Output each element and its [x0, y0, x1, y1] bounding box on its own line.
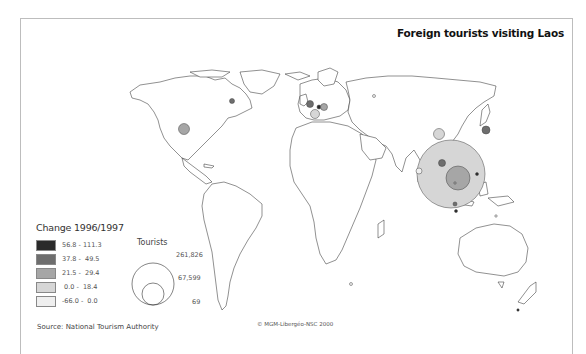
- legend-swatch-5: [36, 296, 56, 307]
- north-america: [130, 76, 252, 160]
- symbol-south-africa: [350, 283, 353, 286]
- legend-class-4: 0.0 - 18.4: [36, 281, 97, 293]
- legend-swatch-1: [36, 240, 56, 251]
- symbol-vietnam: [446, 166, 470, 190]
- symbol-russia: [373, 95, 376, 98]
- legend-label-4: 0.0 - 18.4: [62, 283, 97, 291]
- copyright-note: © MGM-Libergéo-NSC 2000: [257, 321, 333, 327]
- symbol-malaysia: [453, 202, 457, 206]
- size-legend-circle-medium: [142, 283, 164, 305]
- symbol-france: [311, 110, 320, 119]
- size-legend-value-2: 67,599: [178, 274, 201, 282]
- south-america: [202, 182, 262, 310]
- size-legend-circle-large: [132, 263, 174, 305]
- legend-swatch-2: [36, 254, 56, 265]
- legend-class-5: -66.0 - 0.0: [36, 295, 98, 307]
- symbol-japan: [482, 126, 490, 134]
- australia: [458, 224, 528, 276]
- symbol-usa: [179, 124, 190, 135]
- legend-class-1: 56.8 - 111.3: [36, 239, 102, 251]
- size-legend-value-1: 261,826: [176, 251, 203, 259]
- new-zealand: [518, 282, 536, 304]
- symbol-china: [434, 129, 445, 140]
- symbol-australia: [495, 215, 497, 217]
- symbol-singapore: [455, 210, 458, 213]
- legend-label-1: 56.8 - 111.3: [62, 241, 102, 249]
- legend-class-2: 37.8 - 49.5: [36, 253, 100, 265]
- japan: [480, 104, 490, 126]
- legend-class-3: 21.5 - 29.4: [36, 267, 100, 279]
- size-legend-value-3: 69: [192, 298, 200, 306]
- symbol-myanmar-border: [439, 160, 446, 167]
- legend-label-2: 37.8 - 49.5: [62, 255, 100, 263]
- central-america: [182, 158, 212, 184]
- symbol-germany: [321, 104, 328, 111]
- size-legend-title: Tourists: [137, 238, 167, 247]
- symbol-laos: [454, 182, 456, 184]
- source-note: Source: National Tourism Authority: [37, 323, 159, 331]
- symbol-canada: [230, 99, 235, 104]
- legend-swatch-4: [36, 282, 56, 293]
- symbol-uk: [307, 101, 314, 108]
- legend-label-3: 21.5 - 29.4: [62, 269, 100, 277]
- change-legend-title: Change 1996/1997: [36, 222, 124, 233]
- greenland: [240, 70, 280, 94]
- legend-label-5: -66.0 - 0.0: [62, 297, 98, 305]
- symbol-india: [416, 168, 422, 174]
- legend-swatch-3: [36, 268, 56, 279]
- symbol-new-zealand: [517, 309, 519, 311]
- symbol-taiwan: [476, 173, 479, 176]
